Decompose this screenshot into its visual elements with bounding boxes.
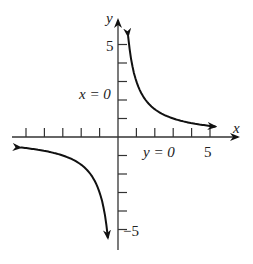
x-tick-label-5: 5: [204, 144, 212, 160]
curve-branch-negative: [21, 148, 108, 238]
vertical-asymptote-label: x = 0: [78, 86, 111, 102]
curve-branch-positive: [128, 36, 215, 126]
x-axis-label: x: [232, 120, 240, 136]
y-tick-label-neg5: −5: [123, 223, 139, 239]
horizontal-asymptote-label: y = 0: [141, 144, 175, 160]
y-axis-label: y: [104, 10, 113, 26]
y-tick-label-5: 5: [106, 38, 114, 54]
hyperbola-chart: x y 5 −5 5 x = 0 y = 0: [0, 0, 253, 264]
